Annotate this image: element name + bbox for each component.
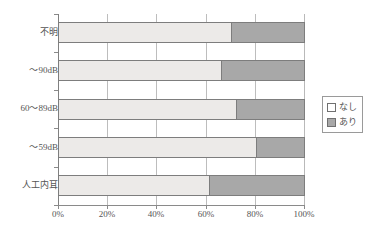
legend-swatch-nashi-icon xyxy=(327,103,336,112)
legend-item-nashi[interactable]: なし xyxy=(327,101,357,113)
x-tick-label-40: 40% xyxy=(148,209,165,220)
bar-segment-ari xyxy=(231,22,305,43)
y-axis-label-60-89db: 60～89dB xyxy=(20,103,58,114)
legend-label-nashi: なし xyxy=(339,101,357,113)
stacked-bar-chart: 不明 ～90dB 60～89dB ～59dB 人工内耳 0% 20% 40% 6… xyxy=(0,0,373,239)
y-axis-label-fumei: 不明 xyxy=(40,27,58,38)
bar-segment-nashi xyxy=(58,22,231,43)
legend: なし あり xyxy=(322,96,363,133)
bar-segment-nashi xyxy=(58,137,256,158)
x-tick-label-60: 60% xyxy=(198,209,215,220)
x-tick-label-100: 100% xyxy=(294,209,315,220)
x-axis-line xyxy=(58,205,305,206)
bar-row xyxy=(58,60,305,81)
bar-row xyxy=(58,99,305,120)
bar-segment-nashi xyxy=(58,60,221,81)
bar-segment-nashi xyxy=(58,99,236,120)
y-tick-mark xyxy=(54,128,58,129)
y-tick-mark xyxy=(54,167,58,168)
bar-segment-ari xyxy=(221,60,305,81)
x-tick-label-20: 20% xyxy=(99,209,116,220)
bar-row xyxy=(58,22,305,43)
bar-segment-nashi xyxy=(58,175,209,196)
x-tick-label-80: 80% xyxy=(247,209,264,220)
legend-label-ari: あり xyxy=(339,116,357,128)
y-axis-label-59db: ～59dB xyxy=(29,142,58,153)
bar-segment-ari xyxy=(209,175,305,196)
y-tick-mark xyxy=(54,52,58,53)
bar-segment-ari xyxy=(236,99,305,120)
y-tick-mark xyxy=(54,14,58,15)
bar-row xyxy=(58,175,305,196)
bar-segment-ari xyxy=(256,137,305,158)
y-axis-label-jinkou-naiji: 人工内耳 xyxy=(22,180,58,191)
x-tick-label-0: 0% xyxy=(52,209,64,220)
legend-item-ari[interactable]: あり xyxy=(327,116,357,128)
y-axis-label-90db: ～90dB xyxy=(29,65,58,76)
y-tick-mark xyxy=(54,90,58,91)
legend-swatch-ari-icon xyxy=(327,118,336,127)
bar-row xyxy=(58,137,305,158)
